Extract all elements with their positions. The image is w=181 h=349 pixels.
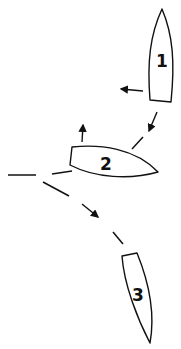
path-dash — [52, 171, 72, 174]
boat-1-wind-arrow-icon — [121, 89, 143, 91]
path-dash — [113, 232, 123, 244]
boat-2-label: 2 — [100, 154, 112, 174]
boat-2: 2 — [70, 146, 158, 177]
boat-3-label: 3 — [132, 285, 144, 305]
sailing-diagram: 1 2 3 — [0, 0, 181, 349]
boat-1-course-arrow-icon — [149, 112, 157, 131]
boat-1-label: 1 — [156, 51, 168, 71]
boat-3: 3 — [122, 253, 152, 343]
boat-2-wind-arrow-icon — [82, 125, 83, 142]
path-dash — [132, 137, 143, 149]
path-dash — [43, 182, 69, 196]
boat-1: 1 — [149, 9, 173, 102]
path-arrow-icon — [82, 204, 98, 217]
